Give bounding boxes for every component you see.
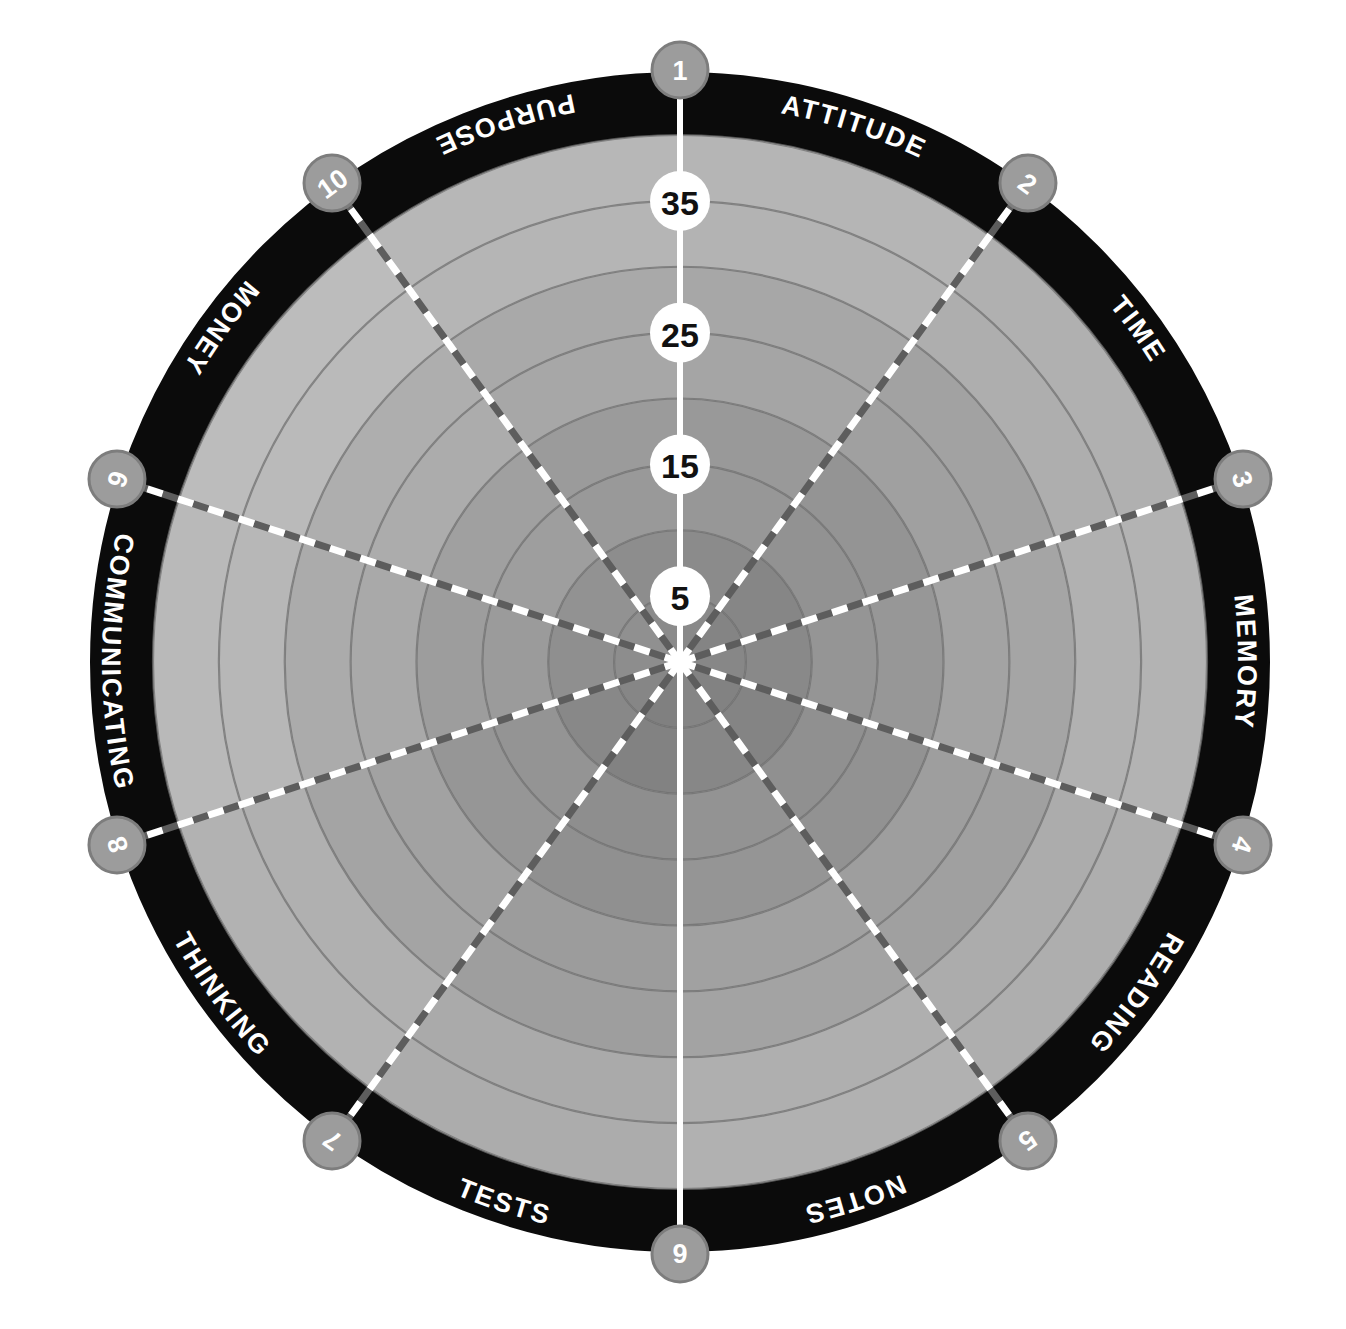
scale-marker-value: 15 (661, 447, 699, 485)
scale-marker-25: 25 (650, 303, 710, 363)
badge-9[interactable]: 9 (89, 451, 145, 507)
scale-marker-value: 5 (671, 579, 690, 617)
badge-7[interactable]: 7 (304, 1113, 360, 1169)
badge-8[interactable]: 8 (89, 817, 145, 873)
scale-marker-value: 25 (661, 316, 699, 354)
badge-1[interactable]: 1 (652, 42, 708, 98)
badge-number: 6 (672, 1238, 687, 1268)
scale-marker-value: 35 (661, 184, 699, 222)
badge-6[interactable]: 6 (652, 1226, 708, 1282)
scale-marker-35: 35 (650, 171, 710, 231)
badge-3[interactable]: 3 (1215, 451, 1271, 507)
badge-5[interactable]: 5 (1000, 1113, 1056, 1169)
badge-2[interactable]: 2 (1000, 155, 1056, 211)
ring-cell[interactable] (868, 581, 944, 744)
wheel-svg: ATTITUDETIMEMEMORYREADINGNOTESTESTSTHINK… (0, 0, 1346, 1329)
ring-cell[interactable] (416, 581, 492, 744)
assessment-wheel-chart: ATTITUDETIMEMEMORYREADINGNOTESTESTSTHINK… (0, 0, 1346, 1329)
scale-marker-15: 15 (650, 434, 710, 494)
badge-4[interactable]: 4 (1215, 817, 1271, 873)
scale-marker-5: 5 (650, 566, 710, 626)
center-hub (671, 653, 689, 671)
badge-10[interactable]: 10 (304, 155, 360, 211)
badge-number: 1 (672, 56, 687, 86)
